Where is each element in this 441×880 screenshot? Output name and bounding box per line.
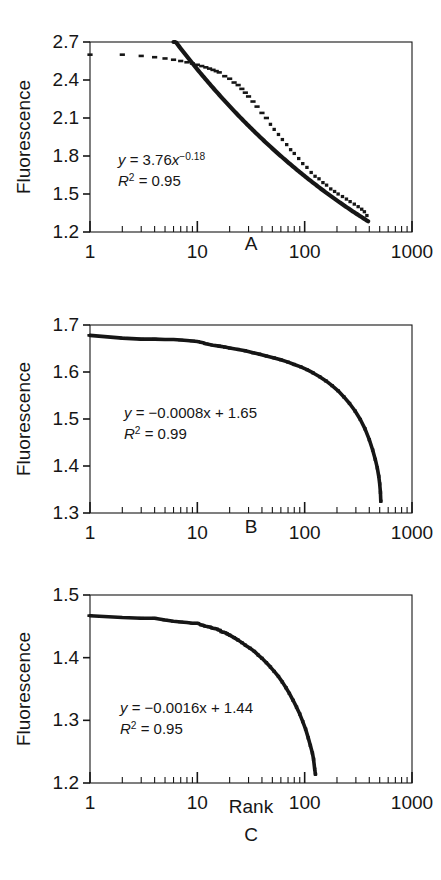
data-point: [223, 345, 226, 348]
data-point: [318, 375, 321, 378]
x-tick-label: 1: [85, 792, 96, 813]
data-point: [348, 200, 351, 203]
data-point: [371, 448, 374, 451]
data-point: [184, 61, 189, 64]
data-point: [236, 348, 239, 351]
data-point: [305, 368, 308, 371]
data-point: [311, 371, 314, 374]
data-point: [333, 190, 336, 193]
data-point: [190, 622, 195, 625]
data-point: [353, 203, 356, 206]
y-tick-label: 1.2: [53, 772, 79, 793]
data-point: [258, 353, 261, 356]
data-point: [228, 634, 231, 637]
data-point: [272, 128, 275, 131]
data-point: [246, 95, 251, 98]
plot-frame: [90, 595, 412, 783]
data-point: [236, 639, 239, 642]
panel-letter-b: B: [245, 516, 258, 537]
data-point: [304, 728, 307, 731]
data-point: [293, 152, 296, 155]
data-point: [251, 351, 254, 354]
y-tick-label: 1.5: [53, 408, 79, 429]
chart-panel-a: 1.21.51.82.12.42.71101001000y = 3.76x−0.…: [0, 0, 441, 290]
data-point: [277, 675, 280, 678]
data-point: [222, 75, 227, 78]
panel-letter-c: C: [244, 824, 258, 845]
x-tick-label: 100: [289, 241, 321, 262]
data-point: [297, 157, 300, 160]
chart-svg-b: 1.31.41.51.61.71101001000y = −0.0008x + …: [0, 285, 441, 575]
data-point: [203, 343, 208, 346]
data-point: [336, 192, 339, 195]
y-tick-label: 1.5: [53, 584, 79, 605]
data-point: [281, 681, 284, 684]
data-point: [374, 458, 377, 461]
data-point: [317, 177, 320, 180]
data-point: [305, 166, 308, 169]
data-point: [348, 402, 351, 405]
data-point: [291, 699, 294, 702]
data-point: [139, 338, 144, 341]
y-tick-label: 2.4: [53, 69, 80, 90]
x-tick-label: 10: [187, 522, 208, 543]
equation-annotation: y = −0.0008x + 1.65: [123, 404, 257, 421]
y-tick-label: 1.2: [53, 221, 79, 242]
data-point: [217, 71, 222, 74]
data-point: [260, 657, 263, 660]
data-point: [295, 706, 298, 709]
data-point: [265, 661, 268, 664]
data-point: [162, 57, 167, 60]
equation-annotation: y = 3.76x−0.18: [117, 151, 205, 169]
x-tick-label: 10: [187, 241, 208, 262]
data-point: [120, 53, 125, 56]
y-tick-label: 1.4: [53, 455, 80, 476]
x-tick-label: 10: [187, 792, 208, 813]
data-point: [239, 88, 244, 91]
data-point: [210, 344, 215, 347]
data-point: [228, 346, 231, 349]
data-point: [243, 91, 248, 94]
data-point: [162, 619, 167, 622]
y-tick-label: 2.1: [53, 107, 79, 128]
data-point: [285, 143, 288, 146]
data-point: [277, 133, 280, 136]
data-point: [356, 205, 359, 208]
x-tick-label: 1: [85, 241, 96, 262]
data-point: [284, 686, 287, 689]
data-point: [311, 751, 314, 754]
x-tick-label: 1000: [391, 792, 433, 813]
y-tick-label: 1.5: [53, 183, 79, 204]
data-point: [312, 758, 315, 761]
data-point: [120, 616, 125, 619]
data-point: [336, 389, 339, 392]
data-point: [190, 340, 195, 343]
data-point: [289, 148, 292, 151]
data-point: [269, 123, 272, 126]
y-tick-label: 1.4: [53, 647, 80, 668]
r-squared-annotation: R2 = 0.95: [120, 720, 183, 738]
data-point: [152, 338, 157, 341]
data-point: [87, 53, 92, 56]
chart-svg-c: 1.21.31.41.51101001000y = −0.0016x + 1.4…: [0, 565, 441, 880]
data-point: [264, 117, 269, 120]
data-point: [269, 665, 272, 668]
data-point: [152, 56, 157, 59]
data-point: [301, 720, 304, 723]
x-tick-label: 100: [289, 792, 321, 813]
data-point: [178, 621, 183, 624]
data-point: [288, 692, 291, 695]
data-point: [184, 339, 189, 342]
data-point: [240, 641, 243, 644]
data-point: [293, 363, 296, 366]
data-point: [329, 187, 332, 190]
data-point: [195, 622, 200, 625]
data-point: [341, 195, 344, 198]
data-point: [365, 214, 368, 217]
data-point: [359, 418, 362, 421]
x-axis-title: Rank: [229, 796, 274, 817]
data-point: [342, 395, 345, 398]
y-axis-title: Fluorescence: [13, 362, 34, 476]
data-point: [324, 379, 327, 382]
data-point: [353, 409, 356, 412]
